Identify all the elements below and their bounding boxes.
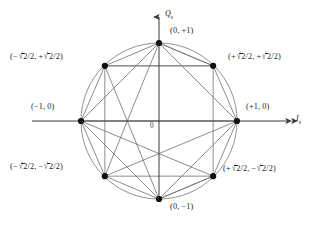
origin-label: 0 — [150, 122, 154, 130]
point-label-left: (−1, 0) — [31, 103, 54, 112]
i-axis-label: Is — [296, 114, 301, 125]
point-marker — [156, 196, 162, 202]
point-label-lower-left: (−√2/2, −√2/2) — [10, 163, 63, 172]
point-marker — [210, 63, 216, 69]
point-label-top: (0, +1) — [170, 27, 193, 36]
point-marker — [234, 118, 240, 124]
point-marker — [102, 173, 108, 179]
point-label-right: (+1, 0) — [246, 103, 269, 112]
q-axis-label: Qs — [165, 9, 173, 20]
point-label-upper-left: (−√2/2, +√2/2) — [10, 53, 63, 62]
point-marker — [156, 40, 162, 46]
i-axis-group — [32, 118, 292, 124]
point-marker — [102, 63, 108, 69]
i-axis-arrowhead — [285, 118, 292, 124]
point-label-bottom: (0, −1) — [170, 203, 193, 212]
point-marker — [210, 173, 216, 179]
point-label-lower-right: (+√2/2, −√2/2) — [223, 165, 276, 174]
constellation-canvas — [0, 0, 320, 227]
constellation-figure: Qs Is 0 (0, +1) (+√2/2, +√2/2) (−√2/2, +… — [0, 0, 320, 227]
point-marker — [78, 118, 84, 124]
point-label-upper-right: (+√2/2, +√2/2) — [228, 53, 281, 62]
